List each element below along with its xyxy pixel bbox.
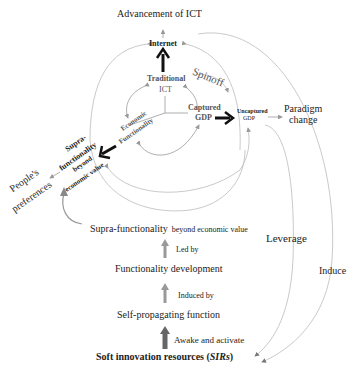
node-internet: Internet	[149, 40, 177, 48]
node-captured-gdp-line2: GDP	[195, 114, 212, 122]
node-advancement-of-ict: Advancement of ICT	[117, 9, 202, 20]
node-traditional-ict-line1: Traditional	[147, 75, 186, 83]
label-led-by: Led by	[176, 246, 198, 254]
sirs-prefix: Soft innovation resources (	[96, 351, 210, 362]
supra-main-suffix: beyond economic value	[172, 225, 248, 234]
node-supra-functionality-main: Supra-functionality beyond economic valu…	[90, 219, 248, 236]
node-paradigm-change-line1: Paradigm	[284, 104, 322, 115]
node-soft-innovation-resources: Soft innovation resources (SIRs)	[96, 352, 233, 363]
sirs-abbr: SIRs	[210, 351, 230, 362]
supra-main-text: Supra-functionality	[90, 223, 168, 234]
node-captured-gdp-line1: Captured	[188, 104, 221, 112]
label-induce: Induce	[319, 266, 346, 277]
sirs-suffix: )	[230, 351, 233, 362]
node-uncaptured-gdp-line2: GDP	[243, 115, 255, 121]
arrow-econ-to-supra	[102, 146, 116, 154]
node-paradigm-change-line2: change	[289, 115, 317, 126]
label-leverage: Leverage	[266, 233, 307, 245]
node-functionality-development: Functionality development	[115, 264, 222, 275]
label-awake-and-activate: Awake and activate	[174, 336, 244, 345]
node-traditional-ict-line2: ICT	[159, 86, 172, 94]
label-induced-by: Induced by	[178, 292, 214, 300]
node-uncaptured-gdp-line1: Uncaptured	[237, 108, 268, 114]
node-self-propagating-function: Self-propagating function	[117, 310, 220, 321]
